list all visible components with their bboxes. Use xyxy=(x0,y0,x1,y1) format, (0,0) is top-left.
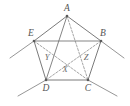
vertex-dot-C xyxy=(87,79,90,82)
diagonal-B-D xyxy=(46,41,101,80)
interior-label-X: X xyxy=(61,64,68,74)
vertex-dot-B xyxy=(100,40,103,43)
ray-beyond-E xyxy=(10,41,34,58)
pentagon-diagram: A B C D E X Y Z xyxy=(0,0,130,106)
vertex-dot-D xyxy=(45,79,48,82)
ray-beyond-B xyxy=(101,41,124,58)
vertex-label-C: C xyxy=(85,83,92,93)
diagonal-A-C xyxy=(67,16,88,80)
vertex-dot-E xyxy=(33,40,36,43)
diagonal-C-E xyxy=(34,41,88,80)
vertex-label-B: B xyxy=(100,28,106,38)
interior-label-Z: Z xyxy=(84,52,89,62)
vertex-label-E: E xyxy=(27,28,34,38)
interior-label-Y: Y xyxy=(45,52,51,62)
geometry-diagram-container: A B C D E X Y Z xyxy=(0,0,130,106)
vertex-label-A: A xyxy=(63,3,70,13)
ray-beyond-C xyxy=(88,80,117,96)
vertex-dot-A xyxy=(66,15,69,18)
vertex-label-D: D xyxy=(42,83,50,93)
side-E-A xyxy=(34,16,67,41)
side-A-B xyxy=(67,16,101,41)
side-B-C xyxy=(88,41,101,80)
